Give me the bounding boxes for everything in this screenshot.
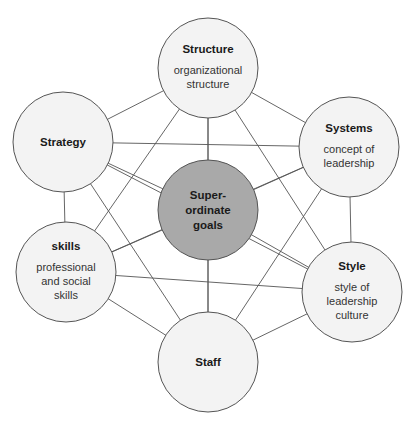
nodes: StructureorganizationalstructureSystemsc… xyxy=(13,18,402,412)
center-label: ordinate xyxy=(185,204,230,216)
node-skills: skillsprofessionaland socialskills xyxy=(16,222,116,322)
node-staff: Staff xyxy=(158,312,258,412)
node-title: Strategy xyxy=(40,136,87,148)
node-subtitle: leadership xyxy=(327,295,378,307)
node-strategy: Strategy xyxy=(13,92,113,192)
node-title: Staff xyxy=(195,356,221,368)
node-subtitle: skills xyxy=(54,289,78,301)
node-title: Structure xyxy=(182,43,233,55)
node-subtitle: professional xyxy=(36,261,95,273)
node-title: skills xyxy=(52,240,81,252)
center-label: goals xyxy=(193,219,223,231)
node-subtitle: structure xyxy=(187,78,230,90)
node-systems: Systemsconcept ofleadership xyxy=(299,97,399,197)
seven-s-diagram: StructureorganizationalstructureSystemsc… xyxy=(0,0,415,427)
node-superordinate-goals: Super-ordinategoals xyxy=(158,160,258,260)
node-subtitle: style of xyxy=(335,281,371,293)
node-subtitle: organizational xyxy=(174,64,243,76)
node-subtitle: concept of xyxy=(324,143,376,155)
node-subtitle: and social xyxy=(41,275,91,287)
node-subtitle: leadership xyxy=(324,157,375,169)
node-title: Systems xyxy=(325,122,372,134)
node-structure: Structureorganizationalstructure xyxy=(158,18,258,118)
node-style: Stylestyle ofleadershipculture xyxy=(302,242,402,342)
center-label: Super- xyxy=(190,189,227,201)
node-subtitle: culture xyxy=(335,309,368,321)
node-title: Style xyxy=(338,260,366,272)
